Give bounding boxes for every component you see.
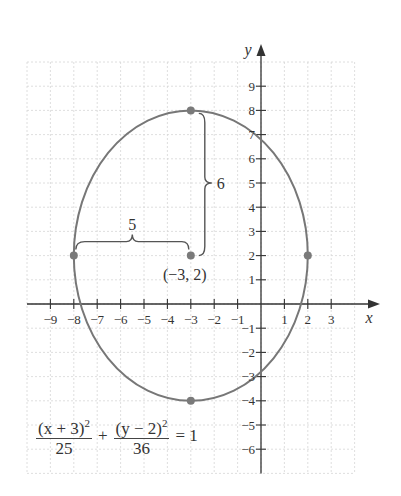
y-tick-label: 1 (249, 272, 256, 287)
y-tick-label: −5 (241, 418, 255, 433)
y-tick-label: −3 (241, 369, 255, 384)
plus-sign: + (98, 426, 108, 446)
x-tick-label: −4 (160, 312, 174, 327)
point-left-covertex (70, 252, 78, 260)
denominator-y: 36 (133, 439, 150, 459)
point-center (187, 252, 195, 260)
y-tick-label: 8 (249, 103, 256, 118)
numerator-x: (x + 3) (38, 419, 84, 438)
x-tick-label: −2 (207, 312, 221, 327)
x-tick-label: −7 (90, 312, 104, 327)
point-right-covertex (304, 252, 312, 260)
y-tick-label: −2 (241, 345, 255, 360)
y-tick-label: −1 (241, 321, 255, 336)
horizontal-brace (76, 235, 189, 250)
horizontal-brace-label: 5 (128, 216, 136, 233)
x-tick-label: 1 (281, 312, 288, 327)
y-tick-label: −6 (241, 442, 255, 457)
x-axis-arrow-icon (368, 300, 380, 309)
x-tick-label: 3 (328, 312, 335, 327)
ellipse-diagram: −9−8−7−6−5−4−3−2−1123−6−5−4−3−2−11234567… (0, 0, 401, 496)
y-tick-label: 5 (249, 176, 256, 191)
denominator-x: 25 (55, 439, 72, 459)
point-top-vertex (187, 106, 195, 114)
y-axis-label: y (242, 41, 252, 59)
x-tick-label: −6 (114, 312, 128, 327)
x-tick-label: −5 (137, 312, 151, 327)
x-tick-label: −3 (184, 312, 198, 327)
x-axis-label: x (364, 309, 372, 326)
point-bottom-vertex (187, 397, 195, 405)
numerator-y: (y − 2) (116, 419, 162, 438)
equation-term-x: (x + 3)2 25 (36, 414, 92, 459)
ellipse-equation: (x + 3)2 25 + (y − 2)2 36 = 1 (36, 414, 204, 459)
y-tick-label: 3 (249, 224, 256, 239)
y-tick-label: 7 (249, 127, 256, 142)
y-tick-label: 6 (249, 151, 256, 166)
y-tick-label: −4 (241, 393, 255, 408)
y-tick-label: 2 (249, 248, 256, 263)
x-tick-label: −8 (67, 312, 81, 327)
equation-term-y: (y − 2)2 36 (114, 414, 170, 459)
labels: −9−8−7−6−5−4−3−2−1123−6−5−4−3−2−11234567… (43, 41, 372, 457)
x-tick-label: −9 (43, 312, 57, 327)
x-tick-label: 2 (305, 312, 312, 327)
equals-one: = 1 (175, 426, 197, 446)
y-axis-arrow-icon (257, 44, 266, 56)
center-point-label: (−3, 2) (163, 266, 207, 284)
y-tick-label: 4 (249, 200, 256, 215)
axes (27, 44, 380, 473)
y-tick-label: 9 (249, 79, 256, 94)
vertical-brace-label: 6 (217, 175, 225, 192)
